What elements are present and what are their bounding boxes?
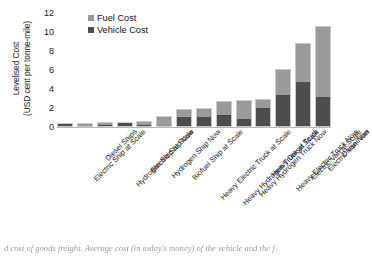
legend-swatch-icon xyxy=(88,27,94,33)
bar-segment-vehicle-cost[interactable] xyxy=(216,115,232,127)
y-tick-label: 2 xyxy=(34,104,54,113)
bar-segment-vehicle-cost[interactable] xyxy=(255,108,271,127)
legend-swatch-icon xyxy=(88,15,94,21)
bar-electric-ship-now[interactable] xyxy=(117,122,133,127)
bar-segment-fuel-cost[interactable] xyxy=(236,100,252,119)
bar-segment-fuel-cost[interactable] xyxy=(295,43,311,82)
bar-segment-fuel-cost[interactable] xyxy=(176,109,192,117)
bar-segment-fuel-cost[interactable] xyxy=(196,108,212,118)
bar-hydrogen-ship-now[interactable] xyxy=(136,121,152,127)
bar-electric-ship-at-scale[interactable] xyxy=(57,123,73,127)
bar-segment-vehicle-cost[interactable] xyxy=(156,126,172,127)
y-axis-ticks: 024681012 xyxy=(34,8,54,127)
bar-heavy-electric-truck-at-scale[interactable] xyxy=(176,109,192,127)
bar-segment-vehicle-cost[interactable] xyxy=(117,123,133,127)
x-tick-label: Electric Ship at Scale xyxy=(92,128,147,183)
bar-segment-vehicle-cost[interactable] xyxy=(196,117,212,127)
legend-item[interactable]: Fuel Cost xyxy=(88,13,148,23)
bar-segment-vehicle-cost[interactable] xyxy=(275,95,291,127)
y-axis-title-line2: (USD cent per tonne-mile) xyxy=(21,4,32,134)
legend-item[interactable]: Vehicle Cost xyxy=(88,25,148,35)
bar-segment-fuel-cost[interactable] xyxy=(156,116,172,126)
y-tick-label: 12 xyxy=(34,9,54,18)
legend-item-label: Vehicle Cost xyxy=(97,25,148,35)
y-tick-label: 8 xyxy=(34,47,54,56)
y-tick-label: 4 xyxy=(34,85,54,94)
bar-heavy-electric-truck-now[interactable] xyxy=(255,99,271,127)
bar-segment-vehicle-cost[interactable] xyxy=(57,124,73,127)
bar-heavy-hydrogen-truck-now[interactable] xyxy=(216,101,232,127)
bar-heavy-diesel-truck[interactable] xyxy=(236,100,252,127)
y-tick-label: 0 xyxy=(34,123,54,132)
bar-electric-van-now[interactable] xyxy=(295,43,311,127)
bar-segment-vehicle-cost[interactable] xyxy=(176,117,192,127)
chart-legend: Fuel CostVehicle Cost xyxy=(88,13,148,35)
bar-heavy-hydrogen-truck-at-scale[interactable] xyxy=(196,108,212,127)
bar-electric-van-at-scale[interactable] xyxy=(275,69,291,127)
figure-caption: d cost of goods freight. Average cost (i… xyxy=(4,243,334,254)
y-axis-title-line1: Levelised Cost xyxy=(11,4,22,134)
bar-segment-vehicle-cost[interactable] xyxy=(315,97,331,127)
bar-segment-fuel-cost[interactable] xyxy=(216,101,232,115)
bar-hydrogen-ship-at-scale[interactable] xyxy=(97,122,113,127)
bar-diesel-ships[interactable] xyxy=(77,123,93,127)
y-tick-label: 6 xyxy=(34,66,54,75)
y-axis-title: Levelised Cost (USD cent per tonne-mile) xyxy=(11,4,32,134)
bar-segment-vehicle-cost[interactable] xyxy=(77,126,93,127)
x-axis-labels: Electric Ship at ScaleDiesel ShipsHydrog… xyxy=(57,128,331,232)
bar-segment-fuel-cost[interactable] xyxy=(315,26,331,96)
bar-segment-fuel-cost[interactable] xyxy=(275,69,291,95)
bar-segment-vehicle-cost[interactable] xyxy=(236,119,252,127)
y-tick-label: 10 xyxy=(34,28,54,37)
bar-segment-vehicle-cost[interactable] xyxy=(136,125,152,127)
bar-biofuel-ship-at-scale[interactable] xyxy=(156,116,172,127)
legend-item-label: Fuel Cost xyxy=(97,13,136,23)
bar-diesel-van[interactable] xyxy=(315,26,331,127)
bar-segment-vehicle-cost[interactable] xyxy=(97,125,113,127)
bar-segment-vehicle-cost[interactable] xyxy=(295,82,311,127)
bar-segment-fuel-cost[interactable] xyxy=(255,99,271,109)
